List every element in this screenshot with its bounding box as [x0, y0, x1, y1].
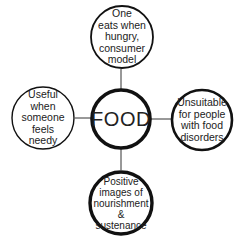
- top-line-5: model: [98, 54, 146, 66]
- bottom-line-1: Positive: [93, 176, 148, 187]
- right-line-3: with food: [177, 120, 227, 132]
- center-node-label: FOOD: [92, 105, 150, 133]
- right-line-4: disorders: [177, 132, 227, 144]
- bottom-line-2: images of: [93, 187, 148, 198]
- left-node-label: Useful when someone feels needy: [13, 91, 73, 145]
- bottom-line-3: nourishment: [93, 198, 148, 209]
- bottom-line-4: &: [93, 209, 148, 220]
- bottom-line-5: sustenance: [93, 220, 148, 231]
- right-line-1: Unsuitable: [177, 97, 227, 109]
- right-node-label: Unsuitable for people with food disorder…: [172, 97, 232, 143]
- left-line-5: needy: [21, 135, 64, 147]
- top-node-label: One eats when hungry, consumer model: [92, 10, 152, 64]
- bottom-node-label: Positive images of nourishment & sustena…: [89, 176, 153, 230]
